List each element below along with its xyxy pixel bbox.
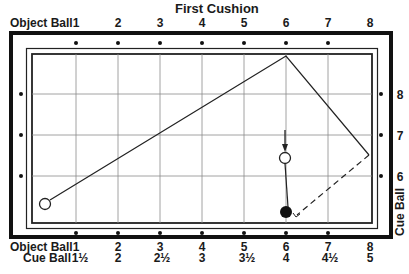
first-cushion-title: First Cushion	[175, 2, 259, 15]
bottom-cb-tick: 2½	[150, 252, 174, 264]
pool-table-diagram	[0, 0, 409, 274]
top-tick: 3	[150, 17, 170, 29]
bottom-cb-tick: 3½	[234, 252, 260, 264]
top-tick: 5	[234, 17, 254, 29]
bottom-cb-tick: 4	[276, 252, 296, 264]
bottom-diamonds	[74, 231, 330, 235]
top-tick: 1	[66, 17, 86, 29]
right-cue-ball-label: Cue Ball	[394, 188, 406, 236]
left-diamonds	[19, 92, 23, 178]
right-tick: 6	[390, 171, 409, 183]
object-ball	[40, 199, 51, 210]
top-tick: 8	[360, 17, 380, 29]
bottom-cb-tick: 4½	[318, 252, 342, 264]
object-ball-path	[50, 56, 369, 200]
top-diamonds	[74, 41, 330, 45]
bottom-cb-tick: 1½	[68, 252, 92, 264]
return-path	[297, 155, 369, 215]
top-tick: 4	[192, 17, 212, 29]
right-diamonds	[379, 92, 383, 178]
cue-ball	[280, 206, 292, 218]
top-tick: 2	[108, 17, 128, 29]
bottom-cb-tick: 3	[192, 252, 212, 264]
right-tick: 8	[390, 89, 409, 101]
top-object-ball-label: Object Ball	[10, 17, 73, 29]
bottom-cb-tick: 2	[108, 252, 128, 264]
top-tick: 6	[276, 17, 296, 29]
bottom-cb-tick: 5	[360, 252, 380, 264]
aim-arrow-head-icon	[282, 144, 288, 152]
bottom-cue-ball-label: Cue Ball	[23, 252, 71, 264]
cue-ball-path	[285, 164, 288, 208]
ghost-cue-ball	[280, 153, 291, 164]
grid	[32, 54, 372, 223]
top-tick: 7	[318, 17, 338, 29]
right-tick: 7	[390, 130, 409, 142]
